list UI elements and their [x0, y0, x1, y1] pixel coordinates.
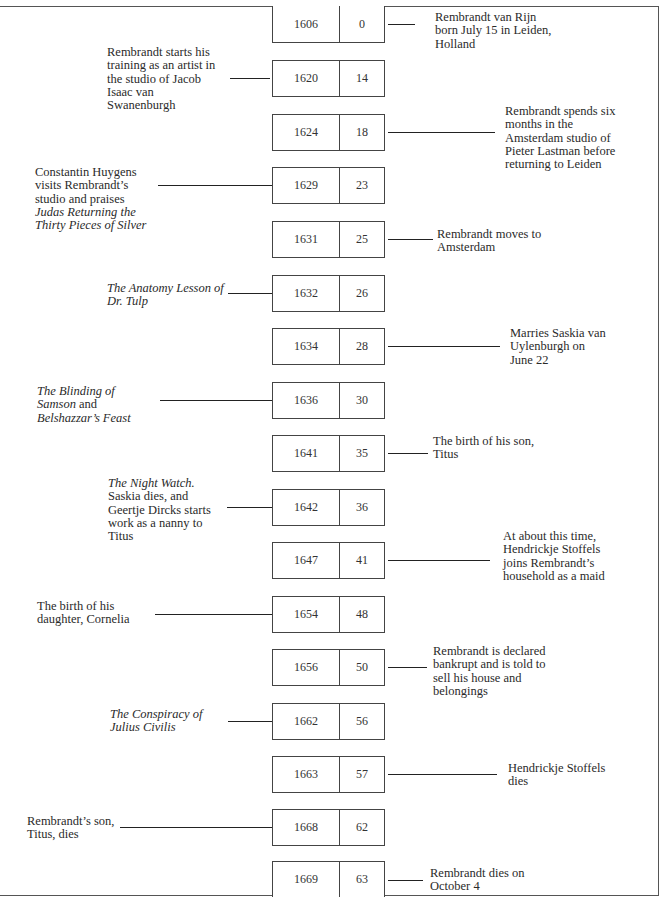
connector-line — [388, 880, 423, 881]
event-note-1634: Marries Saskia vanUylenburgh onJune 22 — [510, 327, 606, 367]
note-line: Swanenburgh — [107, 99, 215, 112]
note-line: Rembrandt spends six — [505, 105, 615, 118]
age-cell: 28 — [340, 329, 384, 364]
connector-line — [160, 400, 272, 401]
note-line: training as an artist in — [107, 59, 215, 72]
event-note-1662: The Conspiracy ofJulius Civilis — [110, 708, 202, 735]
note-line: At about this time, — [503, 530, 605, 543]
year-cell: 1606 — [273, 6, 340, 42]
connector-line — [120, 827, 272, 828]
note-line: Dr. Tulp — [107, 295, 224, 308]
year-cell: 1647 — [273, 543, 340, 578]
connector-line — [388, 560, 490, 561]
event-note-1624: Rembrandt spends sixmonths in theAmsterd… — [505, 105, 615, 171]
year-cell: 1656 — [273, 650, 340, 685]
note-line: Constantin Huygens — [35, 166, 146, 179]
note-line: Titus — [433, 448, 534, 461]
age-cell: 23 — [340, 168, 384, 203]
age-cell: 30 — [340, 383, 384, 418]
note-line: joins Rembrandt’s — [503, 557, 605, 570]
year-cell: 1629 — [273, 168, 340, 203]
timeline-row-1624: 162418 — [272, 114, 385, 151]
note-line: June 22 — [510, 354, 606, 367]
age-cell: 0 — [340, 6, 384, 42]
age-cell: 26 — [340, 276, 384, 311]
note-line: Rembrandt moves to — [437, 228, 541, 241]
age-cell: 62 — [340, 810, 384, 845]
note-line: The Blinding of — [37, 385, 131, 398]
note-line: months in the — [505, 118, 615, 131]
age-cell: 63 — [340, 862, 384, 897]
note-line: Amsterdam — [437, 241, 541, 254]
note-line: Hendrickje Stoffels — [503, 543, 605, 556]
note-line: belongings — [433, 685, 546, 698]
age-cell: 35 — [340, 436, 384, 471]
note-line: Thirty Pieces of Silver — [35, 219, 146, 232]
timeline-row-1669: 166963 — [272, 861, 385, 897]
note-line: The Conspiracy of — [110, 708, 202, 721]
year-cell: 1624 — [273, 115, 340, 150]
note-line: Rembrandt dies on — [430, 867, 524, 880]
year-cell: 1668 — [273, 810, 340, 845]
connector-line — [228, 293, 272, 294]
timeline-row-1606: 16060 — [272, 6, 385, 43]
note-text: and — [76, 397, 97, 411]
event-note-1642: The Night Watch.Saskia dies, andGeertje … — [108, 477, 211, 543]
timeline-row-1620: 162014 — [272, 60, 385, 97]
note-line: studio and praises — [35, 193, 146, 206]
timeline-row-1631: 163125 — [272, 221, 385, 258]
note-line: Pieter Lastman before — [505, 145, 615, 158]
year-cell: 1669 — [273, 862, 340, 897]
note-line: household as a maid — [503, 570, 605, 583]
note-line: The Night Watch. — [108, 477, 211, 490]
timeline-row-1632: 163226 — [272, 275, 385, 312]
note-line: Samson and — [37, 398, 131, 411]
note-line: daughter, Cornelia — [37, 613, 130, 626]
year-cell: 1641 — [273, 436, 340, 471]
year-cell: 1636 — [273, 383, 340, 418]
note-line: bankrupt and is told to — [433, 658, 546, 671]
note-line: Holland — [435, 38, 551, 51]
artwork-title: Samson — [37, 397, 76, 411]
note-line: Hendrickje Stoffels — [508, 762, 605, 775]
note-line: Rembrandt van Rijn — [435, 11, 551, 24]
year-cell: 1654 — [273, 597, 340, 632]
note-line: Julius Civilis — [110, 721, 202, 734]
event-note-1669: Rembrandt dies onOctober 4 — [430, 867, 524, 894]
year-cell: 1634 — [273, 329, 340, 364]
timeline-row-1629: 162923 — [272, 167, 385, 204]
event-note-1620: Rembrandt starts histraining as an artis… — [107, 46, 215, 112]
age-cell: 57 — [340, 757, 384, 792]
note-line: The Anatomy Lesson of — [107, 282, 224, 295]
event-note-1663: Hendrickje Stoffelsdies — [508, 762, 605, 789]
year-cell: 1632 — [273, 276, 340, 311]
event-note-1647: At about this time,Hendrickje Stoffelsjo… — [503, 530, 605, 583]
note-line: sell his house and — [433, 672, 546, 685]
connector-line — [388, 24, 415, 25]
note-line: Rembrandt starts his — [107, 46, 215, 59]
connector-line — [388, 132, 495, 133]
note-line: The birth of his — [37, 600, 130, 613]
note-line: the studio of Jacob — [107, 73, 215, 86]
age-cell: 50 — [340, 650, 384, 685]
connector-line — [388, 346, 500, 347]
event-note-1641: The birth of his son,Titus — [433, 435, 534, 462]
event-note-1606: Rembrandt van Rijnborn July 15 in Leiden… — [435, 11, 551, 51]
age-cell: 25 — [340, 222, 384, 257]
note-line: visits Rembrandt’s — [35, 179, 146, 192]
event-note-1654: The birth of hisdaughter, Cornelia — [37, 600, 130, 627]
age-cell: 48 — [340, 597, 384, 632]
note-line: Belshazzar’s Feast — [37, 412, 131, 425]
age-cell: 56 — [340, 704, 384, 739]
timeline-row-1636: 163630 — [272, 382, 385, 419]
note-line: Rembrandt is declared — [433, 645, 546, 658]
connector-line — [228, 721, 272, 722]
connector-line — [388, 453, 428, 454]
note-line: Titus — [108, 530, 211, 543]
event-note-1632: The Anatomy Lesson ofDr. Tulp — [107, 282, 224, 309]
note-line: dies — [508, 775, 605, 788]
event-note-1631: Rembrandt moves toAmsterdam — [437, 228, 541, 255]
note-line: born July 15 in Leiden, — [435, 24, 551, 37]
year-cell: 1631 — [273, 222, 340, 257]
timeline-row-1647: 164741 — [272, 542, 385, 579]
